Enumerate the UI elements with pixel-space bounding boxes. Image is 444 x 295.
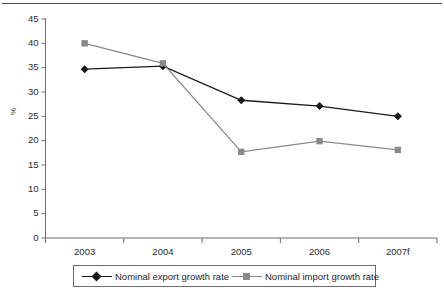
- data-point-marker: [81, 65, 89, 73]
- chart-figure: % 454035302520151050 2003200420052006200…: [0, 0, 444, 295]
- series-line: [85, 66, 398, 116]
- diamond-marker-icon: [92, 272, 102, 282]
- chart-legend: Nominal export growth rate Nominal impor…: [73, 265, 376, 287]
- square-marker-icon: [243, 273, 250, 280]
- data-point-marker: [81, 40, 87, 46]
- legend-label-import: Nominal import growth rate: [265, 271, 379, 283]
- data-point-marker: [160, 60, 166, 66]
- legend-label-export: Nominal export growth rate: [115, 271, 229, 283]
- legend-swatch-export: [82, 272, 112, 282]
- data-point-marker: [394, 112, 402, 120]
- data-point-marker: [395, 147, 401, 153]
- legend-swatch-import: [232, 272, 262, 282]
- data-point-marker: [237, 96, 245, 104]
- legend-entry-import: Nominal import growth rate: [232, 270, 379, 284]
- series-export: [81, 62, 402, 120]
- plot-area: [0, 0, 444, 295]
- data-point-marker: [316, 102, 324, 110]
- legend-entry-export: Nominal export growth rate: [82, 270, 229, 284]
- data-point-marker: [238, 149, 244, 155]
- data-point-marker: [316, 138, 322, 144]
